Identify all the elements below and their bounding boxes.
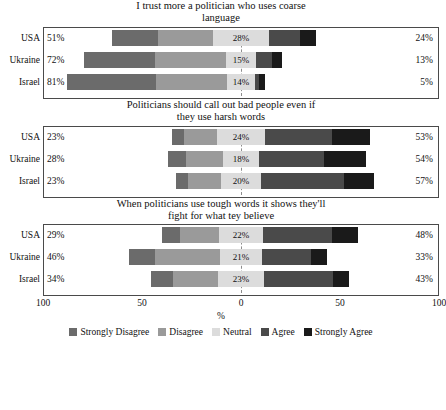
bar-track: 24% bbox=[43, 126, 439, 148]
neutral-value-label: 23% bbox=[233, 271, 250, 287]
plot-area: USA29%48%22%Ukraine46%33%21%Israel34%43%… bbox=[0, 224, 442, 296]
x-axis-unit-label: % bbox=[0, 311, 442, 321]
disagree-total-label: 51% bbox=[47, 27, 64, 49]
panel-title: When politicians use tough words it show… bbox=[0, 198, 442, 223]
bar-segment-strongly-disagree bbox=[168, 151, 186, 167]
legend-swatch-icon bbox=[158, 328, 166, 336]
disagree-total-label: 46% bbox=[47, 246, 64, 268]
bar-segment-strongly-disagree bbox=[67, 74, 156, 90]
bar-track: 18% bbox=[43, 148, 439, 170]
bar-segment-strongly-disagree bbox=[129, 249, 155, 265]
legend-label: Strongly Disagree bbox=[80, 327, 149, 337]
bar-track: 21% bbox=[43, 246, 439, 268]
disagree-total-label: 28% bbox=[47, 148, 64, 170]
bar-segment-disagree bbox=[186, 151, 224, 167]
chart-row: USA23%53%24% bbox=[0, 126, 442, 148]
bar-segment-strongly-disagree bbox=[162, 227, 180, 243]
legend-item[interactable]: Strongly Agree bbox=[304, 327, 373, 337]
chart-panel: I trust more a politician who uses coars… bbox=[0, 0, 442, 99]
x-tick-label: 50 bbox=[335, 298, 345, 308]
bar-segment-agree bbox=[264, 271, 333, 287]
agree-total-label: 53% bbox=[416, 126, 433, 148]
disagree-total-label: 23% bbox=[47, 126, 64, 148]
bar-segment-strongly-agree bbox=[311, 249, 327, 265]
chart-row: Ukraine72%13%15% bbox=[0, 49, 442, 71]
x-tick-label: 50 bbox=[137, 298, 147, 308]
bar-track: 20% bbox=[43, 170, 439, 192]
row-category-label: Ukraine bbox=[0, 148, 40, 170]
row-category-label: Israel bbox=[0, 71, 40, 93]
panel-title-line: I trust more a politician who uses coars… bbox=[70, 0, 372, 12]
bar-segment-strongly-disagree bbox=[112, 30, 158, 46]
bar-segment-disagree bbox=[180, 227, 220, 243]
bar-segment-strongly-disagree bbox=[172, 129, 184, 145]
legend-label: Neutral bbox=[223, 327, 252, 337]
x-axis-ticks: 10050050100 bbox=[43, 297, 439, 312]
bar-track: 22% bbox=[43, 224, 439, 246]
bar-track: 23% bbox=[43, 268, 439, 290]
neutral-value-label: 28% bbox=[233, 30, 250, 46]
bar-segment-disagree bbox=[155, 52, 226, 68]
neutral-value-label: 14% bbox=[233, 74, 250, 90]
panel-title-line: they use harsh words bbox=[70, 111, 372, 123]
legend-item[interactable]: Neutral bbox=[212, 327, 252, 337]
x-tick-label: 100 bbox=[36, 298, 50, 308]
neutral-value-label: 21% bbox=[233, 249, 250, 265]
bar-segment-strongly-disagree bbox=[176, 173, 188, 189]
disagree-total-label: 34% bbox=[47, 268, 64, 290]
agree-total-label: 54% bbox=[416, 148, 433, 170]
chart-row: USA29%48%22% bbox=[0, 224, 442, 246]
bar-segment-strongly-disagree bbox=[151, 271, 173, 287]
bar-segment-agree bbox=[263, 227, 332, 243]
bar-segment-strongly-agree bbox=[332, 227, 358, 243]
bar-segment-strongly-agree bbox=[259, 74, 265, 90]
plot-area: USA51%24%28%Ukraine72%13%15%Israel81%5%1… bbox=[0, 27, 442, 99]
bar-segment-disagree bbox=[173, 271, 219, 287]
panel-title-line: language bbox=[70, 12, 372, 24]
legend-item[interactable]: Disagree bbox=[158, 327, 203, 337]
bar-segment-agree bbox=[265, 129, 332, 145]
x-tick-label: 100 bbox=[432, 298, 446, 308]
chart-row: Israel34%43%23% bbox=[0, 268, 442, 290]
disagree-total-label: 72% bbox=[47, 49, 64, 71]
neutral-value-label: 15% bbox=[233, 52, 250, 68]
row-category-label: USA bbox=[0, 224, 40, 246]
chart-row: USA51%24%28% bbox=[0, 27, 442, 49]
agree-total-label: 57% bbox=[416, 170, 433, 192]
bar-segment-disagree bbox=[155, 249, 220, 265]
agree-total-label: 24% bbox=[416, 27, 433, 49]
bar-segment-agree bbox=[269, 30, 301, 46]
chart-row: Ukraine28%54%18% bbox=[0, 148, 442, 170]
legend-label: Agree bbox=[272, 327, 295, 337]
legend-item[interactable]: Strongly Disagree bbox=[69, 327, 149, 337]
chart-row: Ukraine46%33%21% bbox=[0, 246, 442, 268]
bar-track: 14% bbox=[43, 71, 439, 93]
disagree-total-label: 23% bbox=[47, 170, 64, 192]
row-category-label: Ukraine bbox=[0, 246, 40, 268]
neutral-value-label: 18% bbox=[233, 151, 250, 167]
panel-title-line: When politicians use tough words it show… bbox=[70, 198, 372, 210]
legend-swatch-icon bbox=[212, 328, 220, 336]
row-category-label: Israel bbox=[0, 170, 40, 192]
bar-segment-agree bbox=[262, 249, 312, 265]
chart-row: Israel81%5%14% bbox=[0, 71, 442, 93]
bar-segment-strongly-agree bbox=[272, 52, 282, 68]
panel-title: Politicians should call out bad people e… bbox=[0, 99, 442, 124]
bar-segment-agree bbox=[261, 173, 344, 189]
bar-segment-strongly-disagree bbox=[84, 52, 155, 68]
plot-rows: USA29%48%22%Ukraine46%33%21%Israel34%43%… bbox=[0, 224, 442, 290]
disagree-total-label: 81% bbox=[47, 71, 64, 93]
neutral-value-label: 22% bbox=[233, 227, 250, 243]
bar-segment-disagree bbox=[188, 173, 222, 189]
plot-rows: USA51%24%28%Ukraine72%13%15%Israel81%5%1… bbox=[0, 27, 442, 93]
chart-panel: When politicians use tough words it show… bbox=[0, 198, 442, 322]
bar-segment-strongly-agree bbox=[332, 129, 370, 145]
legend-item[interactable]: Agree bbox=[261, 327, 295, 337]
plot-rows: USA23%53%24%Ukraine28%54%18%Israel23%57%… bbox=[0, 126, 442, 192]
bar-segment-strongly-agree bbox=[300, 30, 316, 46]
chart-legend: Strongly DisagreeDisagreeNeutralAgreeStr… bbox=[0, 327, 442, 337]
bar-segment-disagree bbox=[184, 129, 218, 145]
agree-total-label: 33% bbox=[416, 246, 433, 268]
plot-area: USA23%53%24%Ukraine28%54%18%Israel23%57%… bbox=[0, 126, 442, 198]
